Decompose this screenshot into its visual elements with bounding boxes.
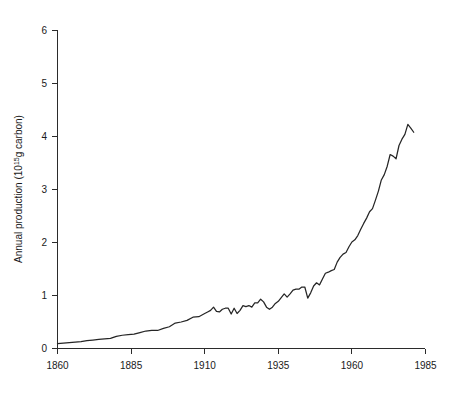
x-tick-label-1885: 1885	[120, 360, 143, 371]
y-tick-label-6: 6	[41, 25, 47, 36]
annual-production-line-chart: 0 1 2 3 4 5 6 1860 1885 1910 1935 1960 1…	[0, 0, 459, 393]
y-tick-label-5: 5	[41, 78, 47, 89]
x-tick-label-1910: 1910	[194, 360, 217, 371]
y-tick-label-3: 3	[41, 184, 47, 195]
y-axis-title-group: Annual production (1015g carbon)	[13, 115, 25, 263]
y-tick-label-4: 4	[41, 131, 47, 142]
y-tick-group: 0 1 2 3 4 5 6	[41, 25, 57, 354]
data-series-line	[58, 124, 414, 343]
x-tick-label-1960: 1960	[341, 360, 364, 371]
y-tick-label-0: 0	[41, 343, 47, 354]
y-axis-title: Annual production (1015g carbon)	[13, 115, 25, 263]
x-tick-label-1985: 1985	[414, 360, 437, 371]
x-tick-label-1860: 1860	[46, 360, 69, 371]
axes-group	[57, 30, 425, 349]
y-axis-title-post: g carbon)	[13, 115, 24, 157]
y-axis-title-superscript: 15	[13, 157, 20, 165]
y-tick-label-2: 2	[41, 237, 47, 248]
x-tick-label-1935: 1935	[267, 360, 290, 371]
y-tick-label-1: 1	[41, 290, 47, 301]
chart-container: 0 1 2 3 4 5 6 1860 1885 1910 1935 1960 1…	[0, 0, 459, 393]
x-tick-group: 1860 1885 1910 1935 1960 1985	[46, 349, 437, 372]
y-axis-title-pre: Annual production (10	[13, 165, 24, 263]
